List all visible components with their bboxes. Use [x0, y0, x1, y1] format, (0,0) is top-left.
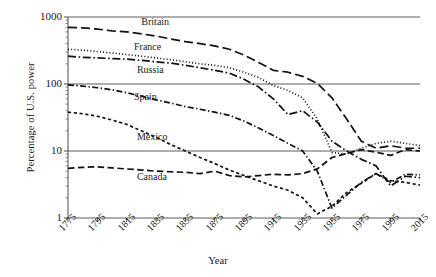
series-label-britain: Britain	[141, 17, 169, 27]
series-label-russia: Russia	[137, 65, 164, 75]
series-line-mexico	[68, 112, 420, 214]
y-tick-label: 1	[10, 212, 62, 223]
series-label-france: France	[134, 42, 161, 52]
y-tick-label: 100	[10, 78, 62, 89]
series-label-canada: Canada	[137, 172, 167, 182]
chart-figure: Percentage of U.S. power Year 1000100101…	[0, 0, 436, 277]
y-tick-label: 10	[10, 145, 62, 156]
series-line-spain	[68, 85, 420, 208]
series-line-canada	[68, 150, 420, 177]
series-line-britain	[68, 27, 420, 148]
series-label-mexico: Mexico	[137, 132, 168, 142]
plot-area	[0, 0, 436, 277]
y-tick-label: 1000	[10, 11, 62, 22]
series-label-spain: Spain	[134, 92, 157, 102]
series-line-france	[68, 49, 420, 154]
